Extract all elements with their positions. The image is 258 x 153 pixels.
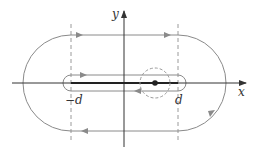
outer-arrow-right-arc-icon [208,110,215,117]
y-axis-label: y [111,7,119,21]
outer-arrow-bottom-icon [81,128,88,134]
point-marker [152,80,158,86]
inner-arrow-top-icon [80,72,87,78]
x-axis-label: x [238,85,245,99]
plus-d-label: d [175,93,183,107]
minus-d-label: −d [65,93,83,107]
inner-arrow-bottom-icon [134,88,141,94]
outer-arrow-top-right-icon [164,32,171,38]
contour-diagram: y x −d d [0,0,258,153]
outer-arrow-top-left-icon [76,32,83,38]
